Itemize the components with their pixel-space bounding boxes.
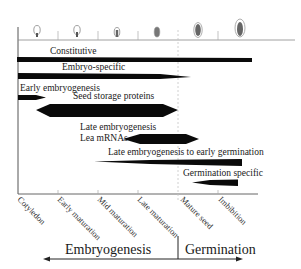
stage-label-late-maturation: Late maturation — [136, 194, 182, 240]
stage-label-mature-seed: Mature seed — [179, 194, 216, 231]
lea-mrnas-label: Lea mRNAs — [80, 133, 128, 143]
seed-icon-early-maturation — [74, 26, 80, 38]
seed-icon-cotyledon — [34, 26, 40, 38]
germination-specific-bar — [192, 180, 238, 187]
arrow-left-icon — [43, 257, 50, 262]
seed-icons — [34, 19, 245, 38]
embryogenesis-phase-label: Embryogenesis — [65, 242, 151, 257]
late-to-early-germination-bar — [94, 159, 242, 166]
constitutive-bar — [17, 57, 252, 62]
expression-timeline-diagram: Constitutive Embryo-specific Early embry… — [0, 0, 301, 269]
seed-icon-late-maturation — [154, 27, 160, 37]
seed-icon-imbibition — [235, 19, 245, 37]
embryo-specific-bar — [18, 73, 191, 79]
late-embryogenesis-label: Late embryogenesis — [80, 122, 157, 132]
seed-storage-proteins-bar — [36, 104, 178, 117]
late-to-early-germination-label: Late embryogenesis to early germination — [108, 147, 264, 157]
seed-icon-mature-seed — [194, 23, 202, 38]
seed-storage-proteins-label: Seed storage proteins — [73, 91, 155, 101]
bottom-ticks — [58, 190, 218, 194]
stage-label-cotyledon: Cotyledon — [16, 194, 49, 227]
early-embryogenesis-bar — [18, 95, 46, 100]
germination-phase-label: Germination — [185, 242, 256, 257]
arrow-right-icon — [236, 257, 243, 262]
stage-labels: Cotyledon Early maturation Mid maturatio… — [16, 194, 250, 242]
stage-label-imbibition: Imbibition — [217, 194, 250, 227]
seed-icon-mid-maturation — [114, 28, 120, 38]
embryo-specific-label: Embryo-specific — [62, 62, 125, 72]
constitutive-label: Constitutive — [50, 46, 96, 56]
lea-mrnas-bar — [123, 134, 199, 144]
germination-specific-label: Germination specific — [183, 168, 263, 178]
